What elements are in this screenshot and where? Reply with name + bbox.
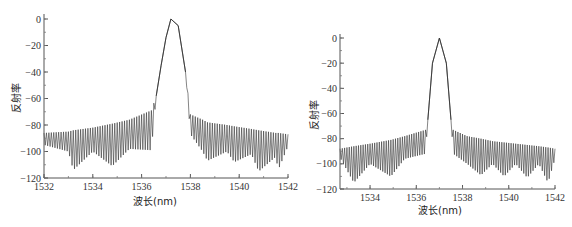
x-tick-label: 1536: [132, 181, 152, 192]
main-peak-line: [156, 19, 185, 96]
right-chart: 0−20−40−60−80−100−120 153415361538154015…: [308, 33, 565, 217]
x-tick-label: 1534: [83, 181, 103, 192]
x-tick-label: 1542: [278, 181, 298, 192]
x-tick-label: 1538: [180, 181, 200, 192]
x-tick-label: 1538: [453, 192, 473, 203]
right-x-axis-title: 波长(nm): [418, 204, 462, 216]
y-tick-label: −40: [321, 83, 337, 94]
y-tick-label: −80: [25, 120, 41, 131]
y-tick-label: −20: [321, 58, 337, 69]
left-plot-area: [44, 19, 288, 170]
x-tick-label: 1534: [360, 192, 380, 203]
y-tick-label: 0: [36, 14, 41, 25]
x-tick-label: 1532: [34, 181, 54, 192]
x-tick-label: 1542: [545, 192, 565, 203]
y-tick-label: −40: [25, 67, 41, 78]
x-tick-label: 1540: [499, 192, 519, 203]
y-tick-label: −100: [316, 158, 337, 169]
y-tick-label: −120: [316, 184, 337, 195]
right-x-ticks: 15341536153815401542: [347, 185, 565, 203]
y-tick-label: −60: [25, 93, 41, 104]
left-chart: 0−20−40−60−80−100−120 153215341536153815…: [10, 14, 298, 208]
main-peak-line: [428, 38, 451, 120]
left-x-ticks: 153215341536153815401542: [34, 174, 298, 192]
y-tick-label: −80: [321, 133, 337, 144]
left-y-axis-title: 反射率: [10, 83, 22, 113]
y-tick-label: −60: [321, 108, 337, 119]
reflectance-line: [44, 19, 288, 170]
y-tick-label: −20: [25, 40, 41, 51]
x-tick-label: 1540: [229, 181, 249, 192]
x-tick-label: 1536: [406, 192, 426, 203]
right-y-axis-title: 反射率: [308, 100, 320, 130]
figure: 0−20−40−60−80−100−120 153215341536153815…: [0, 0, 572, 227]
left-x-axis-title: 波长(nm): [133, 195, 177, 207]
right-plot-area: [340, 38, 555, 181]
y-tick-label: −100: [20, 146, 41, 157]
y-tick-label: 0: [332, 33, 337, 44]
reflectance-line: [340, 38, 555, 181]
